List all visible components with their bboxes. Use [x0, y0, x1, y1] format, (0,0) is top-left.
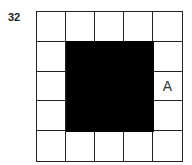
grid-cell-label: A [153, 72, 182, 102]
grid-cell [95, 12, 124, 42]
grid-cell [37, 72, 66, 102]
grid-cell [66, 12, 95, 42]
grid-cell [37, 131, 66, 161]
grid-cell [37, 12, 66, 42]
grid-cell [153, 12, 182, 42]
grid-cell [37, 101, 66, 131]
grid-cell [95, 131, 124, 161]
grid-cell [124, 131, 153, 161]
grid-cell [153, 101, 182, 131]
grid-cell [153, 131, 182, 161]
filled-square [66, 41, 154, 132]
grid-cell [124, 12, 153, 42]
grid-cell [66, 131, 95, 161]
grid-cell [37, 42, 66, 72]
question-number: 32 [8, 11, 20, 23]
grid-cell [153, 42, 182, 72]
